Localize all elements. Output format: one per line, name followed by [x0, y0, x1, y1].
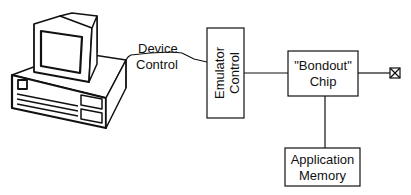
emulator-diagram: Device Control Emulator Control "Bondout…	[0, 0, 411, 195]
bondout-label-line2: Chip	[310, 74, 337, 89]
bondout-label-line1: "Bondout"	[294, 58, 352, 73]
pin-terminal-icon	[390, 68, 400, 78]
memory-label-line2: Memory	[299, 168, 346, 183]
memory-label-line1: Application	[291, 152, 355, 167]
emulator-label-line1: Emulator	[212, 46, 227, 99]
cable-label-line1: Device	[138, 41, 178, 56]
cable-label-line2: Control	[136, 57, 178, 72]
computer-icon	[12, 13, 126, 128]
emulator-label-line2: Control	[227, 52, 242, 94]
